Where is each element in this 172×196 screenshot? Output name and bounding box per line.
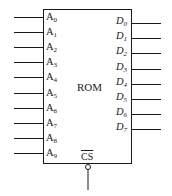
output-label-d7: D7 xyxy=(116,122,127,135)
output-lines xyxy=(131,24,161,130)
input-label-a4: A4 xyxy=(46,72,57,85)
input-label-a7: A7 xyxy=(46,118,57,131)
input-label-a5: A5 xyxy=(46,88,57,101)
input-lines xyxy=(14,18,43,154)
rom-label: ROM xyxy=(77,81,102,93)
input-label-a1: A1 xyxy=(46,27,57,40)
input-label-a8: A8 xyxy=(46,133,57,146)
input-label-a6: A6 xyxy=(46,103,57,116)
cs-inversion-bubble xyxy=(86,165,91,170)
output-label-d6: D6 xyxy=(116,107,127,120)
chip-select-label: CS xyxy=(81,151,93,162)
output-label-d3: D3 xyxy=(116,62,127,75)
output-label-d2: D2 xyxy=(116,46,127,59)
output-label-d5: D5 xyxy=(116,92,127,105)
output-label-d4: D4 xyxy=(116,77,127,90)
output-label-d1: D1 xyxy=(116,31,127,44)
input-label-a2: A2 xyxy=(46,42,57,55)
output-label-d0: D0 xyxy=(116,16,127,29)
input-label-a9: A9 xyxy=(46,148,57,161)
input-label-a0: A0 xyxy=(46,12,57,25)
input-label-a3: A3 xyxy=(46,57,57,70)
rom-diagram xyxy=(0,0,172,196)
